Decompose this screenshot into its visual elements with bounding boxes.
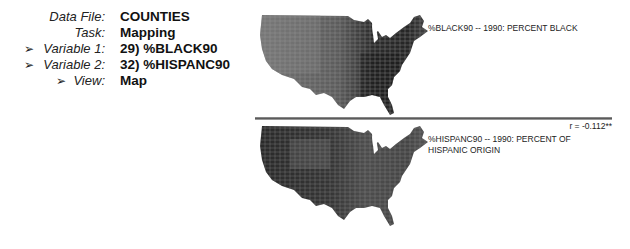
- variable-1-value: 29) %BLACK90: [120, 41, 218, 57]
- map-panel-hispanc90: %HISPANC90 -- 1990: PERCENT OF HISPANIC …: [258, 120, 618, 230]
- correlation-value: r = -0.112**: [569, 121, 612, 131]
- arrow-bullet-icon: ➢: [24, 41, 34, 57]
- info-row-variable-2[interactable]: ➢ Variable 2: 32) %HISPANC90: [0, 57, 250, 73]
- map-panel-black90: %BLACK90 -- 1990: PERCENT BLACK: [258, 0, 618, 117]
- us-county-map-hispanc90[interactable]: [260, 124, 434, 226]
- variable-2-label: Variable 2:: [43, 57, 105, 73]
- view-value: Map: [120, 73, 147, 89]
- data-file-label: Data File:: [49, 9, 105, 25]
- task-label: Task:: [74, 25, 105, 41]
- map-caption-hispanc90-line2: HISPANIC ORIGIN: [428, 145, 500, 156]
- us-county-map-black90[interactable]: [260, 13, 434, 115]
- info-row-variable-1[interactable]: ➢ Variable 1: 29) %BLACK90: [0, 41, 250, 57]
- arrow-bullet-icon: ➢: [24, 57, 34, 73]
- map-caption-hispanc90-line1: %HISPANC90 -- 1990: PERCENT OF: [428, 134, 571, 145]
- variable-1-label: Variable 1:: [43, 41, 105, 57]
- view-label: View:: [73, 73, 105, 89]
- info-row-view[interactable]: ➢ View: Map: [0, 73, 250, 89]
- info-row-task: Task: Mapping: [0, 25, 250, 41]
- info-row-data-file: Data File: COUNTIES: [0, 9, 250, 25]
- task-value: Mapping: [120, 25, 176, 41]
- map-caption-black90: %BLACK90 -- 1990: PERCENT BLACK: [428, 23, 578, 34]
- data-file-value: COUNTIES: [120, 9, 190, 25]
- variable-2-value: 32) %HISPANC90: [120, 57, 230, 73]
- arrow-bullet-icon: ➢: [56, 73, 66, 89]
